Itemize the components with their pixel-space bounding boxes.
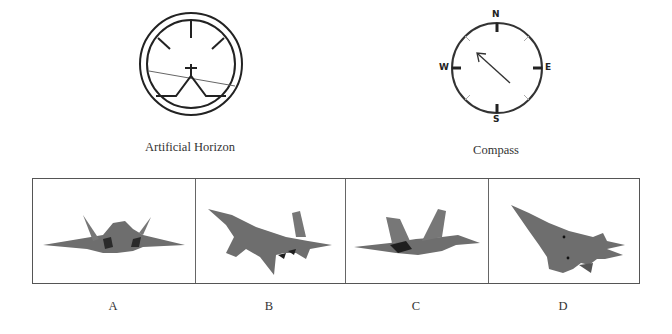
option-d-label: D bbox=[558, 299, 567, 314]
compass: N S W E bbox=[436, 8, 560, 128]
option-b-panel[interactable] bbox=[195, 179, 345, 283]
aircraft-side-profile-icon bbox=[346, 179, 488, 283]
artificial-horizon-label: Artificial Horizon bbox=[145, 140, 235, 155]
option-a-panel[interactable] bbox=[33, 179, 195, 283]
aircraft-top-view-banked-icon bbox=[196, 179, 345, 283]
option-c-label: C bbox=[412, 299, 420, 314]
option-b-label: B bbox=[265, 299, 273, 314]
artificial-horizon-dial bbox=[138, 10, 244, 118]
compass-dial bbox=[436, 8, 560, 128]
compass-east-label: E bbox=[545, 62, 551, 72]
aircraft-front-view-icon bbox=[33, 179, 195, 283]
compass-south-label: S bbox=[493, 114, 499, 124]
option-d-panel[interactable] bbox=[488, 179, 639, 283]
compass-west-label: W bbox=[439, 62, 449, 72]
aircraft-nose-up-view-icon bbox=[489, 179, 639, 283]
aircraft-options-row bbox=[32, 178, 640, 284]
option-a-label: A bbox=[108, 299, 117, 314]
compass-label: Compass bbox=[473, 143, 519, 158]
compass-north-label: N bbox=[492, 9, 500, 19]
artificial-horizon bbox=[138, 10, 244, 118]
option-c-panel[interactable] bbox=[345, 179, 488, 283]
